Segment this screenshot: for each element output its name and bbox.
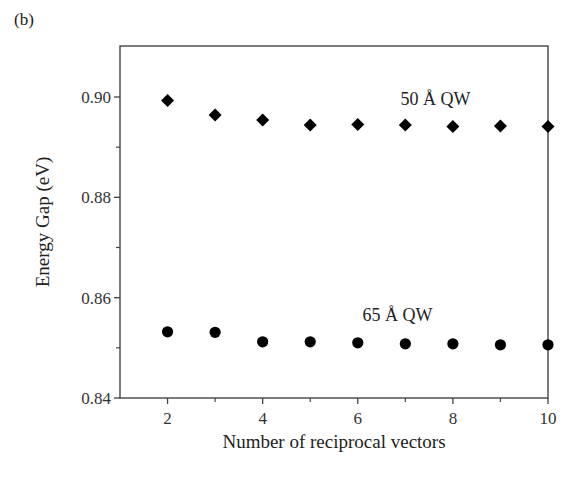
- annotation-50A-QW: 50 Å QW: [401, 89, 471, 109]
- y-tick-label: 0.88: [81, 188, 111, 207]
- data-point-diamond: [542, 120, 555, 133]
- y-tick-label: 0.86: [81, 289, 111, 308]
- x-tick-label: 4: [258, 409, 267, 428]
- data-point-diamond: [446, 120, 459, 133]
- data-point-diamond: [351, 118, 364, 131]
- data-point-diamond: [494, 120, 507, 133]
- data-point-circle: [352, 337, 363, 348]
- data-point-circle: [257, 336, 268, 347]
- data-point-diamond: [399, 119, 412, 132]
- data-point-circle: [542, 339, 553, 350]
- data-point-diamond: [304, 119, 317, 132]
- data-point-circle: [210, 327, 221, 338]
- x-tick-label: 2: [163, 409, 172, 428]
- data-point-diamond: [161, 94, 174, 107]
- y-axis-title: Energy Gap (eV): [32, 157, 54, 288]
- data-point-circle: [447, 338, 458, 349]
- plot-frame: [120, 46, 548, 398]
- x-tick-label: 8: [449, 409, 458, 428]
- x-tick-label: 6: [354, 409, 363, 428]
- data-point-circle: [162, 326, 173, 337]
- y-tick-label: 0.90: [81, 88, 111, 107]
- data-point-circle: [305, 336, 316, 347]
- x-axis-title: Number of reciprocal vectors: [222, 431, 445, 452]
- data-point-diamond: [209, 109, 222, 122]
- annotation-65A-QW: 65 Å QW: [363, 305, 433, 325]
- y-tick-label: 0.84: [81, 389, 111, 408]
- data-point-circle: [400, 338, 411, 349]
- energy-gap-chart: 2468100.840.860.880.90 50 Å QW65 Å QW Nu…: [0, 0, 578, 477]
- data-point-circle: [495, 339, 506, 350]
- data-point-diamond: [256, 114, 269, 127]
- x-tick-label: 10: [540, 409, 557, 428]
